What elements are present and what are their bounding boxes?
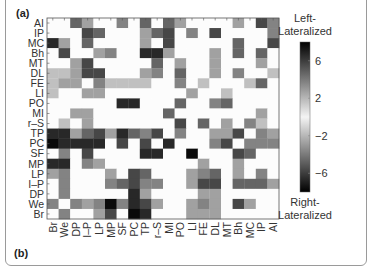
colorbar-top-label-line2: Lateralized <box>278 25 332 37</box>
heatmap-cell <box>244 209 256 219</box>
heatmap-cell <box>70 98 82 108</box>
col-label: LI <box>186 222 198 231</box>
heatmap-cell <box>151 129 163 139</box>
heatmap-cell <box>128 209 140 219</box>
heatmap-cell <box>186 189 198 199</box>
heatmap-cell <box>59 68 71 78</box>
heatmap-cell <box>221 48 233 58</box>
heatmap-cell <box>163 209 175 219</box>
heatmap-cell <box>105 48 117 58</box>
heatmap-cell <box>221 149 233 159</box>
heatmap-cell <box>186 68 198 78</box>
heatmap-cell <box>70 159 82 169</box>
heatmap-cell <box>82 88 94 98</box>
heatmap-cell <box>198 179 210 189</box>
heatmap-cell <box>105 149 117 159</box>
heatmap-cell <box>175 88 187 98</box>
heatmap-cell <box>140 159 152 169</box>
heatmap-cell <box>256 169 268 179</box>
heatmap-cell <box>267 98 279 108</box>
heatmap-cell <box>70 209 82 219</box>
heatmap-cell <box>198 139 210 149</box>
col-label: MP <box>105 222 117 238</box>
heatmap-cell <box>221 98 233 108</box>
col-label: MI <box>163 222 175 234</box>
colorbar <box>300 42 310 192</box>
col-label: DL <box>209 222 221 236</box>
heatmap-cell <box>209 119 221 129</box>
colorbar-tick-label: −6 <box>315 167 328 179</box>
heatmap-cell <box>186 98 198 108</box>
heatmap-cell <box>82 129 94 139</box>
heatmap-cell <box>140 58 152 68</box>
heatmap-cell <box>256 159 268 169</box>
heatmap-cell <box>209 28 221 38</box>
heatmap-cell <box>93 139 105 149</box>
heatmap-cell <box>198 98 210 108</box>
heatmap-cell <box>59 159 71 169</box>
heatmap-cell <box>117 98 129 108</box>
heatmap-cell <box>244 68 256 78</box>
heatmap-cell <box>186 88 198 98</box>
heatmap-cell <box>128 48 140 58</box>
heatmap-cell <box>93 98 105 108</box>
heatmap-cell <box>198 149 210 159</box>
heatmap-cell <box>140 98 152 108</box>
col-label: SF <box>116 222 128 235</box>
heatmap-cell <box>59 149 71 159</box>
heatmap-cell <box>244 48 256 58</box>
heatmap-cell <box>267 139 279 149</box>
heatmap-cell <box>140 119 152 129</box>
heatmap-cell <box>93 149 105 159</box>
heatmap-cell <box>70 139 82 149</box>
heatmap-cell <box>59 119 71 129</box>
heatmap-cell <box>175 48 187 58</box>
heatmap-cell <box>244 58 256 68</box>
heatmap-cell <box>82 98 94 108</box>
heatmap-cell <box>128 189 140 199</box>
col-label: FE <box>197 222 209 235</box>
heatmap-cell <box>128 28 140 38</box>
heatmap-cell <box>59 28 71 38</box>
heatmap-cell <box>128 38 140 48</box>
heatmap-cell <box>151 209 163 219</box>
heatmap-cell <box>186 58 198 68</box>
heatmap-cell <box>175 28 187 38</box>
heatmap-cell <box>221 68 233 78</box>
heatmap-cell <box>70 78 82 88</box>
heatmap-cell <box>256 28 268 38</box>
heatmap-cell <box>221 139 233 149</box>
colorbar-top-label: Left- <box>294 12 316 24</box>
heatmap-cell <box>151 108 163 118</box>
heatmap-cell <box>175 98 187 108</box>
heatmap-cell <box>117 68 129 78</box>
heatmap-cell <box>70 88 82 98</box>
heatmap-cell <box>221 88 233 98</box>
heatmap-cell <box>198 108 210 118</box>
heatmap-cell <box>267 38 279 48</box>
heatmap-cell <box>186 209 198 219</box>
heatmap-cell <box>151 199 163 209</box>
heatmap-cell <box>175 169 187 179</box>
heatmap-cell <box>163 98 175 108</box>
heatmap-cell <box>221 169 233 179</box>
heatmap-cell <box>256 179 268 189</box>
heatmap-cell <box>209 129 221 139</box>
heatmap-cell <box>175 189 187 199</box>
heatmap-cell <box>186 119 198 129</box>
heatmap-cell <box>82 189 94 199</box>
col-label: I–P <box>81 222 93 238</box>
heatmap-cell <box>163 129 175 139</box>
heatmap-cell <box>151 68 163 78</box>
heatmap-cell <box>233 209 245 219</box>
heatmap-cell <box>209 179 221 189</box>
heatmap-cell <box>93 78 105 88</box>
heatmap-cell <box>233 169 245 179</box>
heatmap-cell <box>221 58 233 68</box>
heatmap-cell <box>128 169 140 179</box>
heatmap-cell <box>140 199 152 209</box>
heatmap-cell <box>140 149 152 159</box>
heatmap-cell <box>209 78 221 88</box>
heatmap-cell <box>233 78 245 88</box>
heatmap-cell <box>267 119 279 129</box>
